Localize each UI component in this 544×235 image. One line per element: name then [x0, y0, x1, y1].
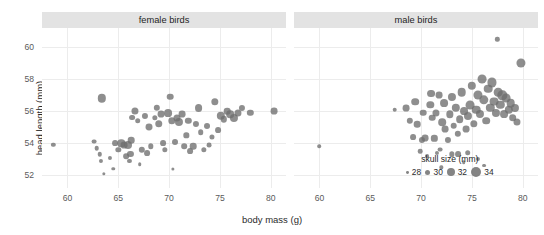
gridline-v: [370, 28, 371, 188]
data-point: [198, 129, 204, 135]
data-point: [128, 137, 135, 144]
data-point: [179, 111, 186, 118]
data-point: [127, 151, 133, 157]
gridline-h: [294, 47, 538, 48]
data-point: [116, 147, 121, 152]
legend-item-28: 28: [406, 167, 421, 177]
data-point: [433, 109, 440, 116]
data-point: [482, 117, 490, 125]
data-point: [410, 134, 416, 140]
data-point: [448, 93, 456, 101]
data-point: [414, 121, 421, 128]
data-point: [184, 133, 189, 138]
facet-label: female birds: [139, 15, 190, 25]
data-point: [195, 104, 203, 112]
data-point: [98, 152, 102, 156]
data-point: [420, 110, 427, 117]
gridline-h: [294, 143, 538, 144]
data-point: [444, 137, 450, 143]
data-point: [98, 94, 106, 102]
data-point: [427, 90, 435, 98]
data-point: [192, 121, 198, 127]
data-point: [442, 125, 449, 132]
gridline-v: [319, 28, 320, 188]
data-point: [185, 118, 191, 124]
x-tick-80: 80: [518, 193, 528, 203]
chart-figure: head length (mm) body mass (g) 525456586…: [0, 0, 544, 235]
data-point: [172, 167, 175, 170]
x-tick-70: 70: [164, 193, 174, 203]
data-point: [516, 59, 525, 68]
data-point: [438, 147, 443, 152]
data-point: [457, 88, 466, 97]
data-point: [478, 75, 487, 84]
legend-items: 28303234: [406, 167, 494, 177]
size-legend: skull size (mm) 28303234: [406, 154, 494, 177]
data-point: [209, 134, 214, 139]
legend-label: 32: [458, 167, 467, 177]
x-tick-60: 60: [63, 193, 73, 203]
x-tick-70: 70: [416, 193, 426, 203]
legend-item-34: 34: [471, 167, 494, 177]
data-point: [155, 120, 162, 127]
data-point: [470, 120, 477, 127]
facet-strip-female-birds: female birds: [42, 12, 286, 28]
legend-label: 34: [484, 167, 493, 177]
gridline-v: [118, 28, 119, 188]
data-point: [441, 99, 449, 107]
data-point: [190, 143, 197, 150]
data-point: [462, 125, 469, 132]
data-point: [318, 145, 322, 149]
data-point: [513, 119, 520, 126]
y-tick-60: 60: [8, 42, 34, 52]
panel-female-birds: [42, 28, 286, 188]
data-point: [91, 139, 96, 144]
data-point: [436, 92, 443, 99]
data-point: [418, 149, 423, 154]
data-point: [145, 124, 152, 131]
data-point: [111, 167, 114, 170]
data-point: [431, 135, 437, 141]
data-point: [201, 147, 206, 152]
gridline-v: [169, 28, 170, 188]
data-point: [175, 118, 183, 126]
facet-label: male birds: [395, 15, 438, 25]
x-axis-title: body mass (g): [0, 214, 544, 225]
gridline-h: [42, 79, 286, 80]
data-point: [239, 105, 245, 111]
x-tick-65: 65: [113, 193, 123, 203]
data-point: [51, 143, 55, 147]
legend-dot-icon: [406, 171, 409, 174]
gridline-h: [294, 79, 538, 80]
data-point: [167, 94, 174, 101]
data-point: [402, 105, 409, 112]
data-point: [450, 122, 457, 129]
data-point: [95, 146, 100, 151]
legend-label: 28: [412, 167, 421, 177]
data-point: [270, 108, 277, 115]
data-point: [164, 109, 172, 117]
y-tick-54: 54: [8, 138, 34, 148]
gridline-v: [220, 28, 221, 188]
facet-strip-male-birds: male birds: [294, 12, 538, 28]
data-point: [182, 144, 188, 150]
data-point: [211, 98, 218, 105]
data-point: [215, 127, 221, 133]
data-point: [142, 113, 148, 119]
data-point: [446, 111, 453, 118]
data-point: [99, 159, 103, 163]
data-point: [108, 156, 112, 160]
data-point: [468, 81, 476, 89]
x-tick-60: 60: [315, 193, 325, 203]
data-point: [144, 150, 150, 156]
data-point: [492, 109, 500, 117]
data-point: [172, 139, 178, 145]
y-tick-58: 58: [8, 74, 34, 84]
legend-dot-icon: [471, 167, 481, 177]
x-tick-65: 65: [365, 193, 375, 203]
data-point: [495, 37, 499, 41]
legend-title: skull size (mm): [406, 154, 494, 164]
y-axis-tick-labels: 5254565860: [8, 0, 34, 235]
legend-item-30: 30: [425, 167, 443, 177]
data-point: [160, 140, 166, 146]
